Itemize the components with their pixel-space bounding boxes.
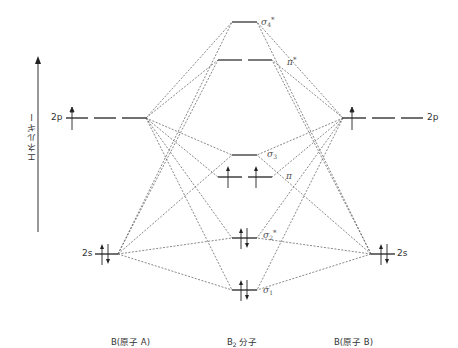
mo-pi-level [218, 166, 272, 188]
left-2s-label: 2s [82, 249, 92, 258]
mo-diagram-canvas [0, 0, 458, 348]
mo-label-pi: π [286, 172, 292, 181]
right-2s-label: 2s [397, 249, 407, 258]
right-2s-level [371, 244, 395, 265]
right-2p-label: 2p [427, 113, 438, 122]
correlation-lines [118, 22, 371, 290]
mo-label-sigma3: σ3 [267, 150, 277, 160]
mo-label-sigma1: σ1 [263, 286, 273, 296]
caption-atom-a: B(原子 A) [111, 335, 150, 347]
mo-label-sigma2-star: σ2* [263, 230, 276, 241]
caption-molecule: B2 分子 [227, 335, 257, 348]
energy-axis-label: エネルギー [24, 112, 37, 162]
left-2s-level [95, 244, 118, 265]
mo-label-sigma4-star: σ4* [261, 17, 274, 28]
caption-atom-b: B(原子 B) [334, 335, 373, 347]
mo-sigma1-level [232, 280, 257, 301]
left-2p-label: 2p [51, 113, 62, 122]
mo-label-pi-star: π* [287, 57, 296, 67]
mo-sigma2-star-level [232, 228, 257, 249]
